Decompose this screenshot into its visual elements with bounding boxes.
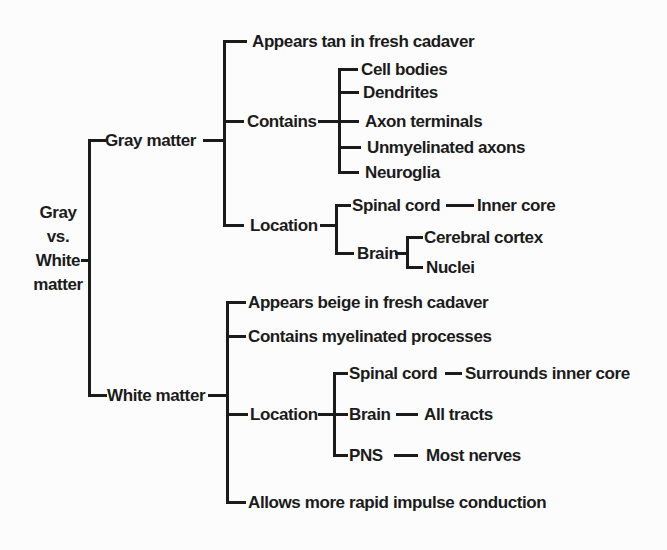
tick-brain-gray <box>335 252 354 255</box>
node-dendrites: Dendrites <box>363 83 438 103</box>
connector-contains-dash <box>318 120 338 123</box>
tick-spinal-cord-gray <box>335 204 351 207</box>
tick-gray-location <box>223 224 244 227</box>
tick-neuroglia <box>338 171 359 174</box>
connector-white-matter-dash <box>208 394 226 397</box>
tick-nuclei <box>406 266 423 269</box>
tick-cell-bodies <box>338 68 358 71</box>
node-all-tracts: All tracts <box>424 405 493 425</box>
node-gray-matter: Gray matter <box>105 131 196 151</box>
tick-cerebral-cortex <box>406 236 423 239</box>
tick-gray-contains <box>223 120 244 123</box>
node-brain-gray: Brain <box>357 244 398 264</box>
node-appears-tan: Appears tan in fresh cadaver <box>252 32 474 52</box>
node-contains: Contains <box>247 112 317 132</box>
connector-most-nerves-dash <box>394 454 418 457</box>
tick-root-white-matter <box>88 394 107 397</box>
node-location-gray: Location <box>250 216 318 236</box>
node-neuroglia: Neuroglia <box>365 163 440 183</box>
node-most-nerves: Most nerves <box>426 446 521 466</box>
bracket-brain-gray <box>406 236 409 269</box>
tick-white-appears <box>226 301 246 304</box>
tick-unmyelinated-axons <box>338 146 361 149</box>
node-axon-terminals: Axon terminals <box>365 112 482 132</box>
tick-white-contains <box>226 335 246 338</box>
node-cerebral-cortex: Cerebral cortex <box>424 228 543 248</box>
bracket-root <box>88 139 91 397</box>
node-surrounds-inner-core: Surrounds inner core <box>465 364 630 384</box>
connector-gray-matter-dash <box>203 139 223 142</box>
connector-surrounds-dash <box>445 372 462 375</box>
tick-white-location <box>226 413 248 416</box>
node-pns: PNS <box>349 446 383 466</box>
node-inner-core: Inner core <box>477 196 555 216</box>
node-cell-bodies: Cell bodies <box>361 60 447 80</box>
bracket-location-gray <box>335 204 338 255</box>
tick-spinal-cord-white <box>333 372 348 375</box>
node-unmyelinated-axons: Unmyelinated axons <box>367 138 525 158</box>
connector-location-gray-dash <box>320 224 335 227</box>
tick-dendrites <box>338 91 359 94</box>
node-appears-beige: Appears beige in fresh cadaver <box>248 293 488 313</box>
node-spinal-cord-gray: Spinal cord <box>352 196 440 216</box>
tick-root-gray-matter <box>88 139 106 142</box>
tick-brain-white <box>333 413 348 416</box>
node-allows-rapid-conduction: Allows more rapid impulse conduction <box>248 493 546 513</box>
connector-location-white-dash <box>318 413 333 416</box>
tick-pns <box>333 454 348 457</box>
node-brain-white: Brain <box>349 405 390 425</box>
bracket-gray-matter <box>223 40 226 227</box>
connector-inner-core-dash <box>446 204 474 207</box>
node-spinal-cord-white: Spinal cord <box>349 364 437 384</box>
concept-map-gray-vs-white-matter: Gray vs. White matter Gray matter Appear… <box>0 0 667 550</box>
tick-axon-terminals <box>338 120 359 123</box>
node-location-white: Location <box>250 405 318 425</box>
connector-all-tracts-dash <box>396 413 418 416</box>
node-contains-myelinated: Contains myelinated processes <box>248 327 492 347</box>
tick-white-allows <box>226 501 246 504</box>
tick-gray-appears <box>223 40 247 43</box>
node-nuclei: Nuclei <box>426 258 475 278</box>
connector-brain-gray-dash <box>395 252 406 255</box>
node-white-matter: White matter <box>107 386 205 406</box>
bracket-white-matter <box>226 301 229 504</box>
